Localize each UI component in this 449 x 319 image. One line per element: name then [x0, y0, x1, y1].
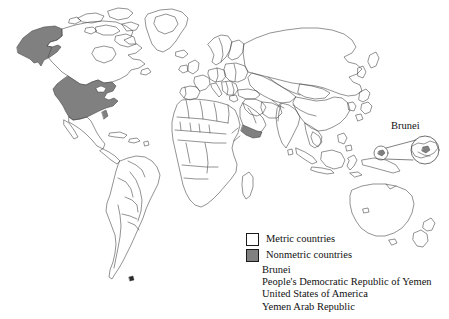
border-spain-portugal [184, 87, 186, 98]
border-central-africa [178, 140, 226, 143]
region-brunei-enlarged [422, 146, 430, 153]
region-brunei-marker [378, 150, 385, 156]
list-item: United States of America [262, 288, 446, 300]
border-west-africa-2 [190, 123, 191, 131]
region-africa [172, 99, 240, 207]
region-japan [359, 89, 370, 102]
region-scandinavia-border [219, 38, 223, 62]
border-balkans-1 [226, 82, 228, 95]
region-japan-2 [361, 102, 372, 114]
region-japan-3 [356, 114, 363, 121]
region-italy [211, 83, 222, 97]
metric-swatch-icon [246, 233, 259, 246]
region-us-florida [102, 110, 108, 119]
region-ireland [179, 65, 188, 73]
region-china [293, 97, 350, 131]
region-pacific-island [363, 208, 369, 213]
list-item: Brunei [262, 264, 446, 276]
region-arctic-islands-3 [96, 25, 120, 35]
region-arctic-islands-6 [69, 17, 81, 24]
region-cuba [109, 132, 127, 138]
region-arctic-islands [78, 13, 104, 23]
region-yemen [241, 125, 262, 138]
region-madagascar [242, 172, 253, 199]
region-indonesia-sumatra [296, 148, 317, 164]
region-france [194, 75, 210, 91]
region-balkans [222, 81, 238, 95]
legend-label-metric: Metric countries [266, 234, 335, 245]
brunei-magnifier-detail [418, 152, 430, 156]
list-item: Yemen Arab Republic [262, 301, 446, 313]
region-arctic-islands-5 [85, 27, 97, 34]
border-west-africa-3 [199, 124, 200, 132]
region-finland [228, 40, 244, 60]
border-drc [186, 143, 190, 163]
border-algeria-libya [200, 101, 203, 119]
border-russia-kazakhstan [268, 77, 300, 95]
border-horn-1 [232, 128, 238, 133]
region-new-zealand-north [423, 218, 435, 231]
region-sri-lanka [288, 149, 293, 155]
border-west-africa-1 [180, 122, 181, 130]
list-item: People's Democratic Republic of Yemen [262, 276, 446, 288]
legend-row-metric: Metric countries [246, 231, 446, 247]
border-egypt-sudan [228, 105, 229, 123]
region-caribbean-small [144, 141, 149, 146]
region-sulawesi [347, 155, 357, 170]
region-philippines [338, 133, 347, 144]
border-balkans-2 [232, 83, 234, 95]
region-falkland-dot [129, 276, 134, 281]
border-east-africa [205, 143, 208, 173]
border-bolivia [125, 197, 138, 212]
region-mexico [69, 117, 105, 149]
region-southeast-asia [305, 123, 322, 148]
region-newfoundland [141, 68, 151, 75]
region-timor [350, 172, 362, 177]
region-scandinavia [208, 35, 232, 65]
figure-world-metric-map: Brunei Metric countries Nonmetric countr… [0, 0, 449, 319]
region-greece [230, 95, 238, 102]
border-north-africa [177, 117, 228, 123]
border-paraguay-uruguay [128, 222, 139, 230]
border-sahel [175, 130, 226, 134]
region-alaska [17, 26, 62, 66]
region-central-america [100, 149, 120, 164]
region-baffin-island [115, 34, 136, 47]
border-peru-brazil [118, 178, 133, 197]
callout-leader-line-bottom [385, 159, 413, 160]
region-british-isles [188, 60, 199, 74]
legend-row-nonmetric: Nonmetric countries [246, 247, 446, 263]
border-southern-africa-2 [184, 178, 208, 179]
region-arctic-islands-2 [108, 8, 133, 20]
region-turkey [238, 89, 260, 99]
border-west-africa-4 [209, 125, 210, 133]
region-greenland [145, 9, 188, 52]
region-united-states [53, 76, 118, 120]
region-russia [243, 28, 362, 96]
region-borneo [321, 150, 345, 169]
border-eastern-europe [234, 64, 236, 81]
nonmetric-swatch-icon [246, 249, 259, 262]
region-australia [350, 184, 414, 236]
region-hudson-bay [92, 46, 116, 63]
nonmetric-country-list: Brunei People's Democratic Republic of Y… [262, 264, 446, 313]
region-baja [64, 120, 78, 139]
border-southern-africa-1 [182, 165, 218, 167]
region-arctic-islands-4 [122, 22, 139, 31]
region-hispaniola [129, 138, 140, 143]
border-germany-poland [216, 68, 218, 82]
legend-label-nonmetric: Nonmetric countries [266, 250, 352, 261]
border-brazil-west [130, 172, 142, 221]
border-libya-egypt [214, 103, 217, 121]
region-iceland [176, 50, 188, 58]
region-indonesia-java [311, 167, 334, 174]
region-kamchatka [368, 52, 379, 68]
border-morocco-algeria [186, 100, 189, 118]
map-legend: Metric countries Nonmetric countries Bru… [246, 231, 446, 313]
brunei-callout-label: Brunei [391, 121, 420, 132]
border-argentina-north [122, 214, 137, 219]
region-greenland-detail [154, 14, 178, 34]
region-mongolia [298, 84, 330, 99]
border-colombia-venezuela [128, 161, 145, 177]
region-philippines-2 [346, 145, 352, 151]
